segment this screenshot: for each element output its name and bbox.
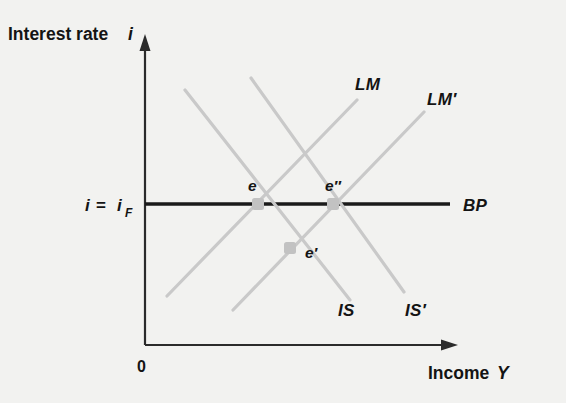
equilibrium-dot-e [252,198,264,210]
curve-label-is-prime: IS′ [405,301,427,320]
curves-group [167,78,424,310]
x-axis-title: Income Y [428,363,510,383]
equilibrium-label-e-double-prime: e″ [325,177,342,194]
equilibrium-points-group [252,198,339,254]
y-axis-title-text: Interest rate [8,24,108,44]
x-axis-title-text: Income [428,363,490,383]
equilibrium-label-e-prime: e′ [305,244,319,261]
curve-label-lm: LM [355,75,381,94]
tick-label-i-left: i [85,196,91,215]
equilibrium-label-e: e [248,177,257,194]
x-axis-arrow-icon [441,340,458,351]
y-axis-title-variable: i [128,24,134,44]
curve-label-bp: BP [463,196,488,215]
tick-label-subscript-f: F [125,206,133,220]
tick-label-equals: = [96,196,106,215]
curve-is [185,90,350,300]
equilibrium-dot-e-double [327,198,339,210]
y-axis-arrow-icon [140,34,151,51]
y-axis-title: Interest rate i [8,24,134,44]
curve-label-is: IS [338,301,355,320]
tick-label-i-right: i [117,196,123,215]
x-axis-title-variable: Y [497,363,510,383]
curve-lm [167,100,357,296]
figure-canvas: Interest rate i Income Y 0 i = i F LM LM… [0,0,566,403]
y-axis-tick-label-if: i = i F [85,196,133,220]
equilibrium-dot-e-prime [284,242,296,254]
is-lm-bp-diagram: Interest rate i Income Y 0 i = i F LM LM… [0,0,566,403]
origin-label: 0 [137,358,146,375]
curve-label-lm-prime: LM′ [427,90,457,109]
